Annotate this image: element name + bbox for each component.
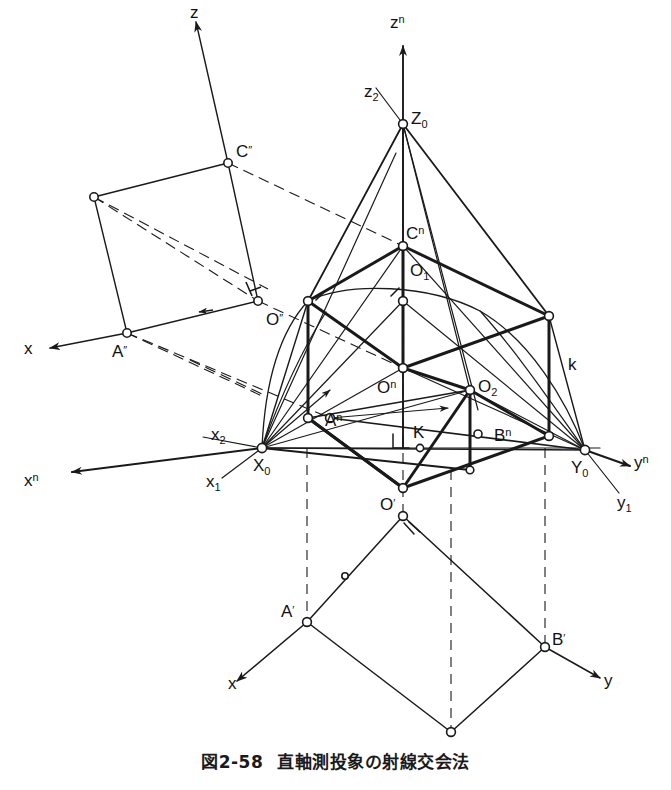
ray-x0-to-an	[262, 448, 470, 470]
label-c-front: C″	[236, 142, 252, 161]
node-hex-right-top	[545, 312, 554, 321]
node-a-plan	[303, 618, 312, 627]
label-z2: z2	[364, 82, 379, 103]
front-edge-left	[94, 197, 127, 333]
label-yn: yn	[634, 453, 649, 472]
figure-page: z C″ O″ A″ x zn z2 Z0 C	[0, 0, 671, 790]
dash-cfront-to-cn	[228, 163, 403, 246]
label-y1: y1	[617, 493, 632, 514]
ray-x0-to-z0	[262, 153, 396, 448]
label-O2: O2	[478, 377, 497, 398]
label-zn: zn	[390, 13, 405, 32]
label-x2: x2	[211, 425, 226, 446]
front-view-projection-lines	[94, 163, 403, 418]
label-o-front: O″	[266, 310, 283, 329]
node-plan-bottom	[447, 728, 456, 737]
dash-cfront-long	[94, 197, 268, 289]
label-x-front: x	[24, 339, 33, 358]
node-o2	[466, 386, 475, 395]
node-o-plan	[399, 512, 408, 521]
plan-axis-x	[237, 622, 307, 681]
node-front-pillar-foot	[466, 466, 474, 474]
dash-upperleft-to-right	[94, 197, 258, 301]
ray-y0-to-o2	[470, 390, 585, 450]
label-Bn: Bn	[494, 426, 511, 445]
label-Cn: Cn	[406, 224, 424, 243]
node-y0	[580, 445, 589, 454]
plan-edge-oa	[307, 516, 403, 622]
label-Z0: Z0	[411, 109, 428, 130]
label-a-plan: A′	[281, 602, 294, 621]
node-K	[416, 444, 423, 451]
plan-axis-y	[545, 647, 600, 678]
node-o1	[399, 297, 408, 306]
front-axis-z	[196, 22, 228, 163]
node-front-upper-left	[90, 193, 98, 201]
front-edge-oa	[127, 301, 258, 333]
label-An: An	[325, 411, 342, 430]
label-z-front: z	[190, 3, 199, 22]
arrow-hint-mid	[330, 408, 448, 418]
dash-ground-left	[190, 360, 262, 394]
node-b-plan	[541, 643, 550, 652]
label-On: On	[377, 378, 396, 397]
node-hex-bottom	[399, 484, 408, 493]
arc-k-top	[308, 288, 480, 311]
node-o-front	[254, 297, 262, 305]
vertex-nodes	[90, 120, 590, 737]
label-K: K	[413, 423, 425, 442]
plan-edge-ob	[403, 516, 545, 647]
caption-number: 図2-58	[201, 752, 263, 772]
cube-thin-edge-c	[403, 368, 470, 390]
node-hex-left-top	[304, 297, 313, 306]
label-xn: xn	[24, 471, 39, 490]
label-x1: x1	[206, 472, 221, 493]
node-hex-right-bottom	[545, 432, 554, 441]
technical-drawing: z C″ O″ A″ x zn z2 Z0 C	[0, 0, 671, 790]
label-b-plan: B′	[552, 630, 565, 649]
ray-x0-to-o2	[262, 390, 470, 448]
node-on	[399, 364, 408, 373]
node-z0	[399, 120, 408, 129]
ray-z0-to-right-hex	[403, 124, 549, 316]
label-Y0: Y0	[571, 458, 588, 479]
dash-afront-to-an	[127, 333, 330, 418]
label-k-curve: k	[568, 355, 577, 374]
hex-lower-left-edge	[308, 418, 403, 488]
node-x0	[257, 443, 266, 452]
node-a-front	[123, 329, 131, 337]
node-bn	[474, 430, 482, 438]
label-O1: O1	[410, 261, 429, 282]
node-plan-mid	[342, 573, 348, 579]
label-X0: X0	[253, 456, 270, 477]
dash-lower-left	[127, 333, 262, 396]
axis-xn	[72, 448, 262, 472]
front-axis-z-lower	[228, 163, 258, 301]
caption-text: 直軸測投象の射線交会法	[277, 752, 470, 772]
label-a-front: A″	[112, 342, 127, 361]
label-o-plan: O′	[380, 495, 395, 514]
label-y-plan: y	[604, 671, 613, 690]
right-angle-mark-K	[393, 434, 409, 448]
front-view-group	[50, 22, 258, 348]
figure-caption: 図2-58直軸測投象の射線交会法	[0, 748, 671, 773]
axonometric-group	[72, 46, 630, 493]
plan-edge-b-bottom	[451, 647, 545, 732]
axis-z2	[376, 88, 403, 124]
node-hex-left-bottom	[304, 414, 313, 423]
label-x-plan: x	[228, 674, 237, 693]
node-c-front	[224, 159, 232, 167]
plan-edge-a-bottom	[307, 622, 451, 732]
front-edge-ca	[94, 163, 228, 197]
